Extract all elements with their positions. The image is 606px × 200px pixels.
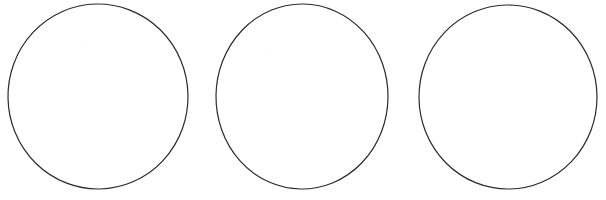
figure-background [0,0,606,200]
figure-canvas [0,0,606,200]
three-circles-figure [0,0,606,200]
